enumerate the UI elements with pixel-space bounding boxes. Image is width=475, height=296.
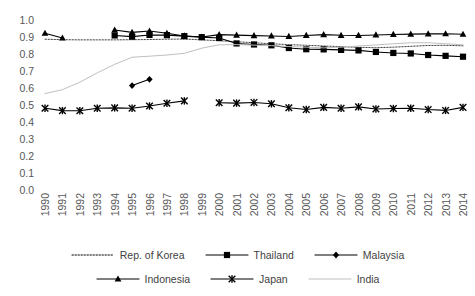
legend-item-label: Rep. of Korea — [120, 249, 185, 261]
y-tick-label: 0.2 — [19, 151, 34, 161]
legend-sample-diamond-icon — [314, 249, 358, 261]
series-line — [45, 43, 463, 94]
series-indonesia — [42, 26, 467, 40]
x-tick-label: 1991 — [57, 193, 67, 216]
legend-item-malaysia[interactable]: Malaysia — [314, 249, 404, 261]
y-tick-label: 1.0 — [19, 15, 34, 25]
y-tick-label: 0.3 — [19, 134, 34, 144]
chart-container: 0.00.10.20.30.40.50.60.70.80.91.0 199019… — [0, 0, 475, 296]
legend-item-thailand[interactable]: Thailand — [205, 249, 294, 261]
legend-item-indonesia[interactable]: Indonesia — [96, 273, 191, 285]
legend-row-1: Rep. of KoreaThailandMalaysia — [0, 243, 475, 267]
plot-svg — [38, 21, 470, 191]
y-tick-label: 0.6 — [19, 83, 34, 93]
x-tick-label: 2011 — [406, 193, 416, 216]
x-tick-label: 1998 — [179, 193, 189, 216]
y-tick-label: 0.0 — [19, 185, 34, 195]
x-tick-label: 2012 — [423, 193, 433, 216]
data-point-marker — [146, 76, 152, 83]
plot-area — [38, 21, 470, 191]
legend-sample-triangle-icon — [96, 273, 140, 285]
data-point-marker — [321, 46, 327, 52]
legend-item-label: Indonesia — [145, 273, 191, 285]
data-point-marker — [286, 45, 292, 51]
legend-sample-square-icon — [205, 249, 249, 261]
x-tick-label: 1994 — [110, 193, 120, 216]
x-tick-label: 2006 — [319, 193, 329, 216]
data-point-marker — [216, 31, 223, 37]
x-tick-label: 2010 — [388, 193, 398, 216]
data-point-marker — [373, 49, 379, 55]
data-point-marker — [333, 252, 339, 259]
data-point-marker — [223, 252, 229, 258]
series-line — [132, 79, 149, 85]
x-tick-label: 2007 — [336, 193, 346, 216]
x-tick-label: 2009 — [371, 193, 381, 216]
x-tick-label: 2000 — [214, 193, 224, 216]
legend-item-label: Japan — [259, 273, 288, 285]
x-axis: 1990199119921993199419951996199719981999… — [38, 193, 470, 241]
x-tick-label: 1997 — [162, 193, 172, 216]
legend-sample-asterisk-icon — [210, 273, 254, 285]
legend-sample-dotted-icon — [71, 249, 115, 261]
data-point-marker — [390, 50, 396, 56]
x-tick-label: 1993 — [92, 193, 102, 216]
data-point-marker — [233, 40, 239, 46]
x-tick-label: 2013 — [441, 193, 451, 216]
data-point-marker — [111, 26, 118, 32]
legend-sample-solid-light-icon — [308, 273, 352, 285]
data-point-marker — [408, 50, 414, 56]
data-point-marker — [112, 32, 118, 38]
x-tick-label: 2008 — [354, 193, 364, 216]
legend-item-label: India — [357, 273, 380, 285]
x-tick-label: 2014 — [458, 193, 468, 216]
x-tick-label: 2005 — [301, 193, 311, 216]
data-point-marker — [146, 27, 153, 33]
x-tick-label: 2003 — [266, 193, 276, 216]
x-tick-label: 1992 — [75, 193, 85, 216]
y-tick-label: 0.9 — [19, 32, 34, 42]
x-tick-label: 1999 — [197, 193, 207, 216]
data-point-marker — [251, 41, 257, 47]
legend-item-rep-of-korea[interactable]: Rep. of Korea — [71, 249, 185, 261]
y-tick-label: 0.7 — [19, 66, 34, 76]
x-tick-label: 1990 — [40, 193, 50, 216]
data-point-marker — [355, 47, 361, 53]
legend-item-label: Thailand — [254, 249, 294, 261]
x-tick-label: 1996 — [145, 193, 155, 216]
x-tick-label: 2004 — [284, 193, 294, 216]
series-malaysia — [129, 76, 153, 89]
data-point-marker — [460, 54, 466, 60]
series-india — [45, 43, 463, 94]
data-point-marker — [442, 53, 448, 59]
x-tick-label: 2001 — [232, 193, 242, 216]
legend-item-label: Malaysia — [363, 249, 404, 261]
legend-row-2: IndonesiaJapanIndia — [0, 267, 475, 291]
y-tick-label: 0.5 — [19, 100, 34, 110]
y-tick-label: 0.4 — [19, 117, 34, 127]
series-japan — [42, 97, 467, 114]
y-tick-label: 0.8 — [19, 49, 34, 59]
legend-item-japan[interactable]: Japan — [210, 273, 288, 285]
y-axis: 0.00.10.20.30.40.50.60.70.80.91.0 — [0, 0, 38, 200]
x-tick-label: 1995 — [127, 193, 137, 216]
data-point-marker — [42, 30, 49, 36]
legend-item-india[interactable]: India — [308, 273, 380, 285]
chart-legend: Rep. of KoreaThailandMalaysia IndonesiaJ… — [0, 243, 475, 296]
data-point-marker — [320, 31, 327, 37]
data-point-marker — [425, 52, 431, 58]
data-point-marker — [129, 82, 135, 89]
y-tick-label: 0.1 — [19, 168, 34, 178]
x-tick-label: 2002 — [249, 193, 259, 216]
